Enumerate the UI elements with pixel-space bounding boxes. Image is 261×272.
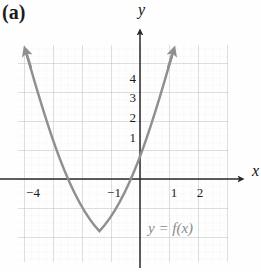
- x-tick-label-neg4: −4: [22, 185, 44, 201]
- y-tick-label-4: 4: [120, 71, 136, 87]
- x-tick-label-2: 2: [189, 185, 211, 201]
- y-tick-label-2: 2: [120, 110, 136, 126]
- y-axis-label: y: [138, 1, 145, 19]
- x-axis-label: x: [252, 162, 259, 180]
- y-tick-label-1: 1: [120, 130, 136, 146]
- curve-equation-label: y = f(x): [148, 220, 193, 237]
- y-tick-label-3: 3: [120, 90, 136, 106]
- x-tick-label-1: 1: [163, 185, 185, 201]
- figure-panel: (a): [0, 0, 261, 272]
- x-tick-label-neg1: −1: [103, 185, 125, 201]
